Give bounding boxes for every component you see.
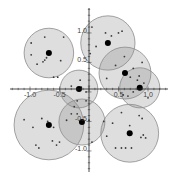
data-point — [79, 79, 81, 81]
x-tick-label: -0.5 — [53, 91, 65, 98]
data-point — [125, 147, 127, 149]
data-point — [36, 63, 38, 65]
cluster-center — [46, 122, 52, 128]
data-point — [142, 134, 144, 136]
data-point — [59, 141, 61, 143]
data-point — [121, 30, 123, 32]
data-point — [41, 118, 43, 120]
data-point — [103, 121, 105, 123]
data-point — [141, 62, 143, 64]
cluster-center — [46, 50, 52, 56]
data-point — [42, 61, 44, 63]
y-tick-label: -0.5 — [75, 115, 87, 122]
data-point — [35, 144, 37, 146]
data-point — [85, 100, 87, 102]
data-point — [53, 126, 55, 128]
data-point — [30, 54, 32, 56]
data-point — [111, 35, 113, 37]
data-point — [56, 144, 58, 146]
data-point — [136, 79, 138, 81]
data-point — [106, 77, 108, 79]
data-point — [95, 46, 97, 48]
x-tick-label: 1.0 — [143, 91, 153, 98]
data-point — [132, 67, 134, 69]
data-point — [89, 53, 91, 55]
data-point — [115, 147, 117, 149]
data-point — [66, 119, 68, 121]
x-tick-label: 0.5 — [114, 91, 124, 98]
x-tick-label: -1.0 — [24, 91, 36, 98]
data-point — [44, 59, 46, 61]
cluster-center — [127, 130, 133, 136]
data-point — [131, 147, 133, 149]
data-point — [141, 118, 143, 120]
data-point — [132, 91, 134, 93]
data-point — [118, 32, 120, 34]
data-point — [70, 113, 72, 115]
data-point — [112, 122, 114, 124]
y-tick-label: 1.0 — [77, 27, 87, 34]
data-point — [46, 57, 48, 59]
data-point — [129, 76, 131, 78]
data-point — [124, 56, 126, 58]
data-point — [121, 112, 123, 114]
data-point — [60, 60, 62, 62]
data-point — [121, 147, 123, 149]
data-point — [30, 42, 32, 44]
data-point — [127, 95, 129, 97]
data-point — [138, 115, 140, 117]
cluster-center — [137, 85, 143, 91]
data-point — [143, 82, 145, 84]
data-point — [91, 141, 93, 143]
data-point — [44, 36, 46, 38]
cluster-center — [122, 70, 128, 76]
data-point — [52, 140, 54, 142]
data-point — [138, 75, 140, 77]
data-point — [23, 119, 25, 121]
data-point — [38, 147, 40, 149]
data-point — [73, 106, 75, 108]
data-point — [63, 36, 65, 38]
y-tick-label: 0.5 — [77, 56, 87, 63]
data-point — [106, 135, 108, 137]
cluster-center — [105, 40, 111, 46]
data-point — [115, 65, 117, 67]
data-point — [145, 137, 147, 139]
data-point — [140, 136, 142, 138]
data-point — [32, 126, 34, 128]
y-tick-label: -1.0 — [75, 145, 87, 152]
data-point — [70, 85, 72, 87]
data-point — [129, 125, 131, 127]
data-point — [57, 76, 59, 78]
cluster-plot: -1.0-0.50.51.01.00.5-0.5-1.0 — [0, 0, 175, 179]
data-point — [53, 76, 55, 78]
data-point — [105, 32, 107, 34]
data-point — [91, 26, 93, 28]
data-point — [76, 100, 78, 102]
